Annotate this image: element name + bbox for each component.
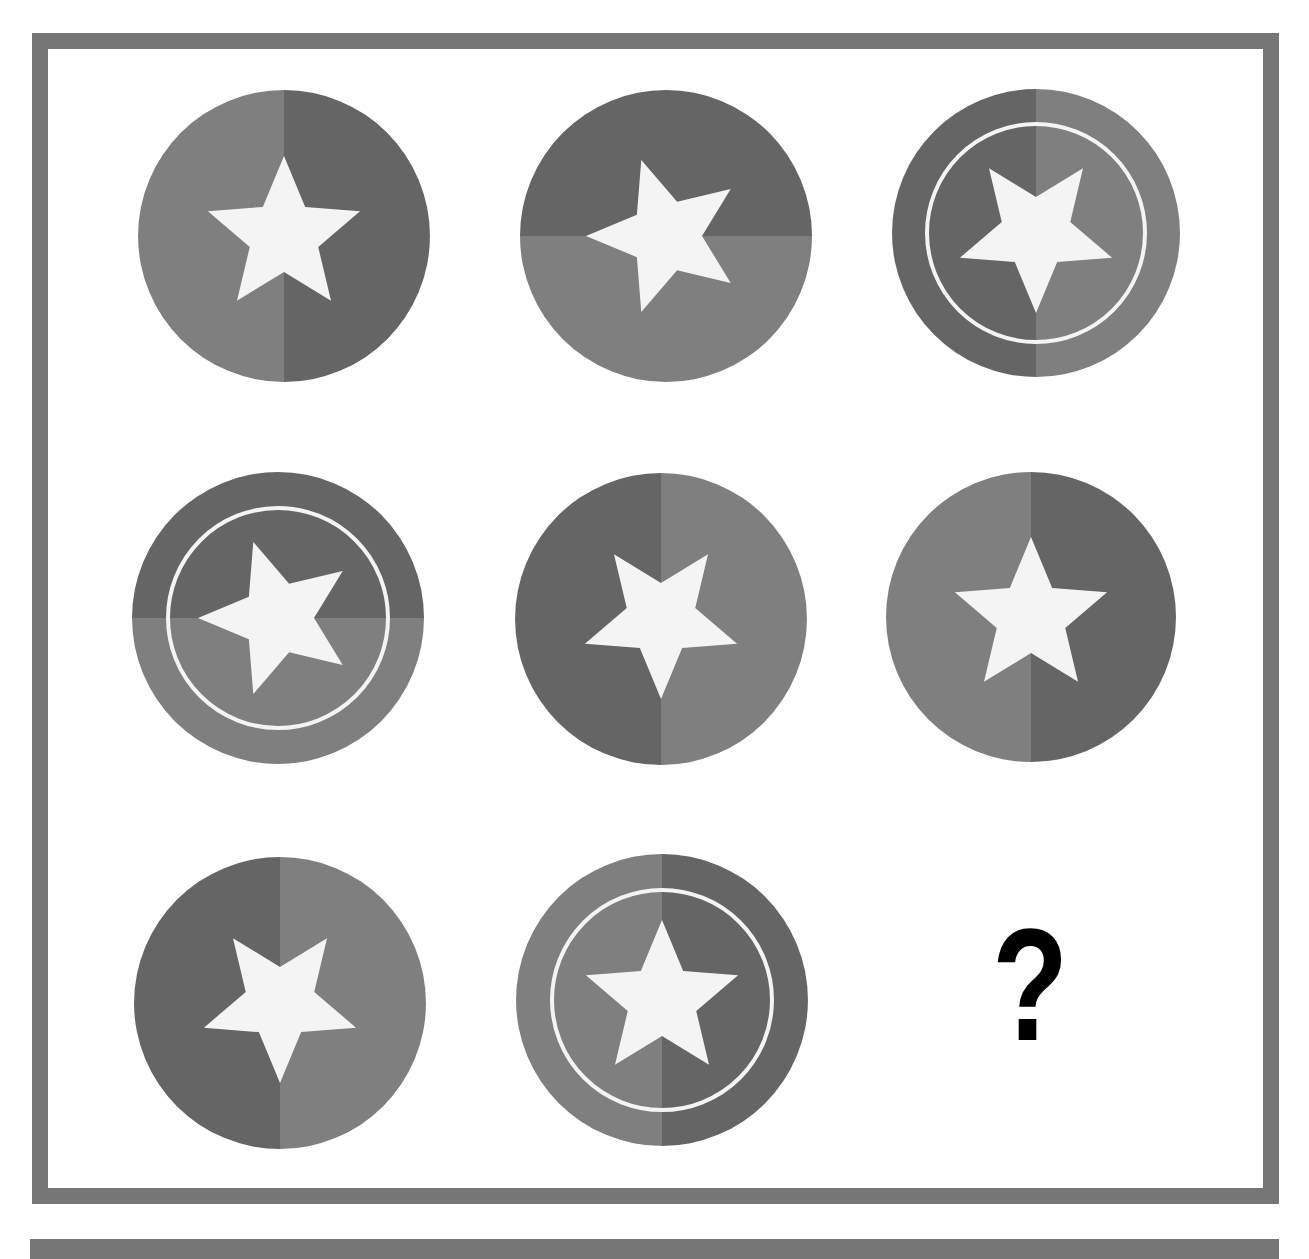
puzzle-cell-r3c1 bbox=[130, 853, 430, 1153]
puzzle-cell-r1c3 bbox=[886, 83, 1186, 383]
missing-cell-question-mark: ? bbox=[975, 900, 1084, 1070]
puzzle-cell-r2c2 bbox=[511, 469, 811, 769]
puzzle-cell-r2c1 bbox=[128, 468, 428, 768]
puzzle-cell-r3c2 bbox=[512, 850, 812, 1150]
answer-options-panel-edge bbox=[30, 1239, 1279, 1259]
puzzle-cell-r1c2 bbox=[516, 86, 816, 386]
puzzle-cell-r2c3 bbox=[881, 467, 1181, 767]
puzzle-cell-r1c1 bbox=[134, 86, 434, 386]
